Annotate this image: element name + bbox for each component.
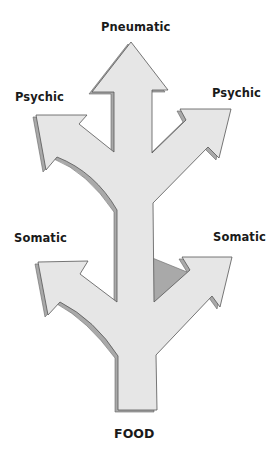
label-somatic-left: Somatic <box>14 231 67 245</box>
pneumatic-arrow-and-trunk <box>36 42 232 410</box>
label-psychic-left: Psychic <box>15 90 64 104</box>
label-psychic-right: Psychic <box>212 86 261 100</box>
label-pneumatic: Pneumatic <box>101 20 171 34</box>
arrow-body <box>36 42 232 410</box>
label-somatic-right: Somatic <box>213 230 266 244</box>
label-food: FOOD <box>114 426 155 441</box>
branching-arrow-diagram <box>0 0 274 458</box>
